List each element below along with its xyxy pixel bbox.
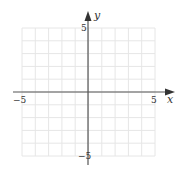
- x-max-tick-label: 5: [151, 95, 157, 105]
- x-min-tick-label: −5: [13, 95, 27, 105]
- coordinate-plane: y x 5 −5 −5 5: [0, 0, 184, 176]
- y-min-tick-label: −5: [78, 151, 92, 161]
- x-axis-label: x: [167, 93, 174, 106]
- y-max-tick-label: 5: [81, 23, 87, 33]
- y-axis-arrow-icon: [85, 11, 92, 21]
- y-axis-label: y: [93, 9, 101, 22]
